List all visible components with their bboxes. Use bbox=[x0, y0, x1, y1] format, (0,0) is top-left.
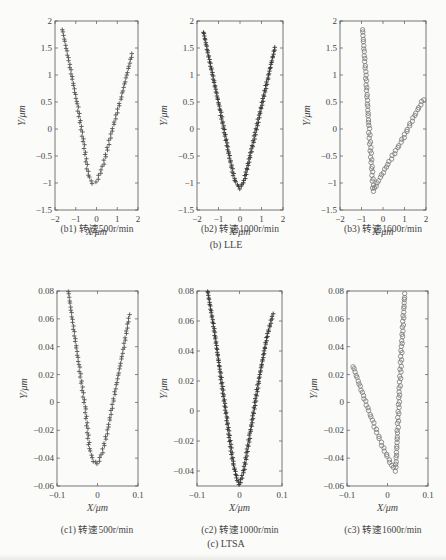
y-tick-label: 1 bbox=[190, 70, 195, 80]
y-tick-label: 0.5 bbox=[183, 97, 195, 107]
caption-b2: (b2) 转速1000r/min bbox=[201, 221, 279, 235]
scatter-panel-b1: −1.5−1−0.500.511.52−2−1012X/μmY/μm bbox=[16, 16, 140, 237]
y-tick-label: 1 bbox=[48, 70, 53, 80]
scatter-panel-c1: −0.06−0.04−0.0200.020.040.060.08−0.100.1… bbox=[18, 286, 144, 513]
y-tick-label: 1 bbox=[333, 70, 338, 80]
y-tick-label: −0.04 bbox=[33, 453, 54, 463]
y-tick-label: 0.02 bbox=[38, 370, 54, 380]
caption-b1: (b1) 转速500r/min bbox=[60, 221, 133, 235]
y-tick-label: 1.5 bbox=[41, 43, 53, 53]
y-axis-label: Y/μm bbox=[158, 378, 169, 399]
y-tick-label: −1 bbox=[42, 178, 52, 188]
scatter-panel-b2: −1.5−1−0.500.511.52−2−1012X/μmY/μm bbox=[158, 16, 285, 237]
y-tick-label: 1.5 bbox=[183, 43, 195, 53]
x-axis-label: X/μm bbox=[228, 502, 250, 513]
y-tick-label: 2 bbox=[333, 16, 338, 26]
scatter-panel-b3: −1.5−1−0.500.511.52−2−1012X/μmY/μm bbox=[301, 16, 428, 237]
figure-canvas: −1.5−1−0.500.511.52−2−1012X/μmY/μm−1.5−1… bbox=[0, 0, 446, 560]
x-tick-label: −0.1 bbox=[49, 490, 65, 500]
x-tick-label: −2 bbox=[50, 214, 60, 224]
y-tick-label: 2 bbox=[48, 16, 53, 26]
y-tick-label: −0.5 bbox=[36, 151, 53, 161]
y-tick-label: −0.02 bbox=[173, 436, 194, 446]
y-axis-label: Y/μm bbox=[18, 378, 29, 399]
y-tick-label: 0 bbox=[340, 397, 345, 407]
y-tick-label: 0 bbox=[333, 124, 338, 134]
y-tick-label: 0.04 bbox=[328, 342, 344, 352]
x-tick-label: −0.1 bbox=[189, 490, 205, 500]
y-tick-label: 0.04 bbox=[178, 346, 194, 356]
x-tick-label: 0 bbox=[237, 490, 242, 500]
y-tick-label: 1.5 bbox=[326, 43, 338, 53]
x-tick-label: 2 bbox=[136, 214, 141, 224]
y-tick-label: 0.06 bbox=[328, 314, 344, 324]
y-tick-label: 0.08 bbox=[328, 286, 344, 296]
x-tick-label: −0.1 bbox=[339, 490, 355, 500]
y-tick-label: 0.06 bbox=[178, 316, 194, 326]
y-tick-label: 0.04 bbox=[38, 342, 54, 352]
scatter-panel-c2: −0.04−0.0200.020.040.060.08−0.100.1X/μmY… bbox=[158, 286, 288, 513]
caption-c2: (c2) 转速1000r/min bbox=[201, 522, 278, 536]
x-axis-label: X/μm bbox=[376, 502, 398, 513]
y-tick-label: 0 bbox=[48, 124, 53, 134]
y-axis-label: Y/μm bbox=[308, 378, 319, 399]
x-tick-label: 2 bbox=[281, 214, 286, 224]
x-tick-label: 0 bbox=[385, 490, 390, 500]
y-tick-label: 0 bbox=[50, 397, 55, 407]
y-tick-label: −0.02 bbox=[323, 425, 344, 435]
axes-frame bbox=[197, 21, 283, 210]
x-tick-label: 2 bbox=[424, 214, 429, 224]
y-tick-label: 0.08 bbox=[38, 286, 54, 296]
y-tick-label: 0.06 bbox=[38, 314, 54, 324]
y-tick-label: −0.5 bbox=[321, 151, 338, 161]
y-tick-label: −0.02 bbox=[33, 425, 54, 435]
y-tick-label: −0.04 bbox=[323, 453, 344, 463]
caption-c1: (c1) 转速500r/min bbox=[61, 522, 134, 536]
y-tick-label: 0 bbox=[190, 406, 195, 416]
x-tick-label: 0.1 bbox=[132, 490, 143, 500]
y-axis-label: Y/μm bbox=[16, 105, 27, 126]
y-tick-label: −0.04 bbox=[173, 466, 194, 476]
caption-c3: (c3) 转速1600r/min bbox=[344, 522, 421, 536]
y-tick-label: 0.08 bbox=[178, 286, 194, 296]
x-tick-label: 0.1 bbox=[276, 490, 287, 500]
scatter-panel-c3: −0.06−0.04−0.0200.020.040.060.08−0.100.1… bbox=[308, 286, 434, 513]
axes-frame bbox=[57, 291, 138, 486]
y-tick-label: 2 bbox=[190, 16, 195, 26]
y-tick-label: 0.5 bbox=[326, 97, 338, 107]
caption-b3: (b3) 转速1600r/min bbox=[344, 221, 422, 235]
y-tick-label: −1 bbox=[184, 178, 194, 188]
x-axis-label: X/μm bbox=[86, 502, 108, 513]
y-tick-label: −0.5 bbox=[178, 151, 195, 161]
y-tick-label: 0.5 bbox=[41, 97, 53, 107]
y-axis-label: Y/μm bbox=[301, 105, 312, 126]
y-axis-label: Y/μm bbox=[158, 105, 169, 126]
x-tick-label: 0.1 bbox=[422, 490, 433, 500]
group-caption-lle: (b) LLE bbox=[210, 239, 243, 250]
y-tick-label: 0.02 bbox=[328, 370, 344, 380]
x-tick-label: 0 bbox=[95, 490, 100, 500]
y-tick-label: 0.02 bbox=[178, 376, 194, 386]
group-caption-ltsa: (c) LTSA bbox=[207, 538, 245, 549]
cropped-figure-title bbox=[0, 554, 446, 560]
y-tick-label: 0 bbox=[190, 124, 195, 134]
y-tick-label: −1 bbox=[327, 178, 337, 188]
